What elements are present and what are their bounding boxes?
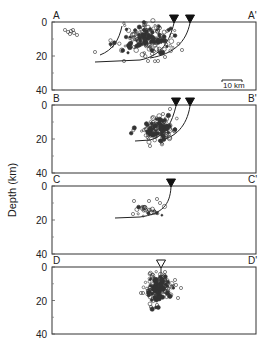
earthquake-hypocenter	[75, 33, 78, 36]
panel-C: CC'02040	[36, 174, 257, 260]
panel-frame	[52, 186, 256, 254]
earthquake-hypocenter	[137, 213, 139, 215]
section-end-label: A'	[248, 10, 257, 21]
panel-A: AA'0204010 km	[36, 10, 257, 96]
section-end-label: B'	[248, 93, 257, 104]
earthquake-hypocenter	[161, 214, 163, 216]
y-tick-label: 20	[36, 51, 48, 62]
y-tick-label: 40	[36, 85, 48, 96]
earthquake-hypocenter	[165, 283, 167, 285]
earthquake-hypocenter	[148, 36, 151, 39]
earthquake-hypocenter	[155, 271, 157, 273]
earthquake-hypocenter	[165, 291, 169, 295]
section-end-label: C'	[248, 174, 257, 185]
scale-bar-label: 10 km	[223, 81, 245, 90]
earthquake-hypocenter	[128, 45, 133, 50]
fault-trace	[115, 187, 171, 218]
earthquake-hypocenter	[169, 27, 172, 30]
earthquake-hypocenter	[158, 201, 161, 204]
y-tick-label: 0	[41, 181, 47, 192]
section-start-label: D	[53, 255, 60, 266]
earthquake-hypocenter	[132, 126, 136, 130]
earthquake-hypocenter	[169, 295, 171, 297]
earthquake-hypocenter	[142, 286, 145, 289]
earthquake-hypocenter	[142, 21, 145, 24]
section-end-label: D'	[248, 255, 257, 266]
earthquake-hypocenter	[118, 42, 121, 45]
earthquake-hypocenter	[180, 48, 183, 51]
earthquake-hypocenter	[127, 52, 129, 54]
earthquake-hypocenter	[63, 28, 66, 31]
fault-trace	[100, 26, 122, 55]
earthquake-hypocenter	[124, 24, 126, 26]
panel-B: BB'02040	[36, 93, 257, 179]
earthquake-hypocenter	[175, 117, 178, 120]
earthquake-hypocenter	[164, 275, 168, 279]
cross-section-figure: AA'0204010 kmBB'02040CC'02040DD'02040	[0, 0, 272, 351]
earthquake-hypocenter	[163, 38, 167, 42]
earthquake-hypocenter	[137, 25, 141, 29]
earthquake-hypocenter	[72, 31, 75, 34]
earthquake-hypocenter	[168, 107, 171, 110]
earthquake-hypocenter	[146, 123, 149, 126]
earthquake-hypocenter	[169, 45, 172, 48]
earthquake-hypocenter	[137, 43, 142, 48]
earthquake-hypocenter	[160, 50, 165, 55]
section-start-label: A	[53, 10, 60, 21]
y-tick-label: 0	[41, 17, 47, 28]
earthquake-hypocenter	[124, 35, 128, 39]
earthquake-hypocenter	[144, 281, 146, 283]
earthquake-hypocenter	[155, 197, 158, 200]
earthquake-hypocenter	[164, 118, 167, 121]
earthquake-hypocenter	[137, 33, 141, 37]
earthquake-hypocenter	[154, 47, 159, 52]
earthquake-hypocenter	[93, 50, 96, 53]
earthquake-hypocenter	[147, 199, 150, 202]
earthquake-hypocenter	[173, 128, 176, 131]
earthquake-hypocenter	[153, 124, 157, 128]
earthquake-hypocenter	[152, 27, 155, 30]
earthquake-hypocenter	[68, 32, 71, 35]
earthquake-hypocenter	[146, 59, 149, 62]
earthquake-hypocenter	[158, 139, 161, 142]
earthquake-hypocenter	[148, 144, 151, 147]
y-tick-label: 20	[36, 296, 48, 307]
earthquake-hypocenter	[163, 270, 166, 273]
earthquake-hypocenter	[147, 294, 150, 297]
earthquake-hypocenter	[156, 293, 159, 296]
earthquake-hypocenter	[151, 31, 154, 34]
earthquake-hypocenter	[154, 24, 156, 26]
earthquake-hypocenter	[166, 113, 170, 117]
y-tick-label: 0	[41, 100, 47, 111]
earthquake-hypocenter	[162, 30, 166, 34]
earthquake-hypocenter	[109, 39, 112, 42]
earthquake-hypocenter	[156, 59, 159, 62]
y-tick-label: 40	[36, 249, 48, 260]
earthquake-hypocenter	[151, 116, 153, 118]
earthquake-hypocenter	[172, 287, 175, 290]
earthquake-hypocenter	[174, 29, 176, 31]
panel-D: DD'02040	[36, 255, 257, 340]
earthquake-hypocenter	[176, 296, 179, 299]
earthquake-hypocenter	[162, 135, 166, 139]
earthquake-hypocenter	[141, 291, 144, 294]
earthquake-hypocenter	[173, 278, 176, 281]
earthquake-hypocenter	[172, 46, 174, 48]
y-tick-label: 0	[41, 262, 47, 273]
earthquake-hypocenter	[130, 41, 133, 44]
earthquake-hypocenter	[163, 55, 166, 58]
earthquake-hypocenter	[129, 131, 133, 135]
earthquake-hypocenter	[169, 39, 174, 44]
section-start-label: B	[53, 93, 60, 104]
earthquake-hypocenter	[143, 37, 147, 41]
earthquake-hypocenter	[153, 296, 157, 300]
earthquake-hypocenter	[161, 112, 164, 115]
earthquake-hypocenter	[134, 29, 137, 32]
y-tick-label: 20	[36, 134, 48, 145]
earthquake-hypocenter	[153, 60, 156, 63]
earthquake-hypocenter	[131, 212, 134, 215]
y-tick-label: 40	[36, 329, 48, 340]
y-tick-label: 40	[36, 168, 48, 179]
y-tick-label: 20	[36, 215, 48, 226]
earthquake-hypocenter	[112, 41, 116, 45]
